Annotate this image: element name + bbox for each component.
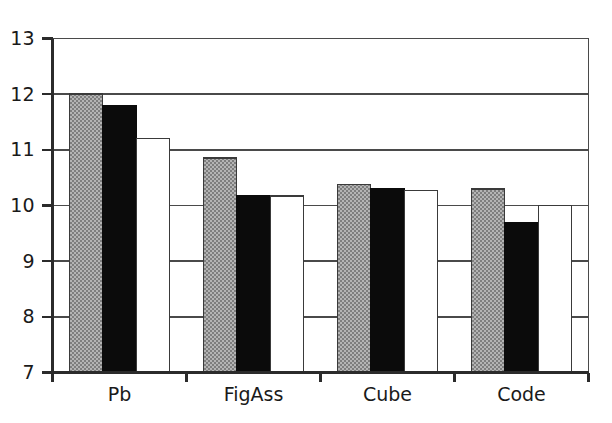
y-tick-label-9: 9 bbox=[22, 250, 34, 272]
bar-code-white bbox=[538, 206, 572, 373]
bar-code-gray bbox=[471, 189, 505, 373]
bar-chart-figure: 78910111213 PbFigAssCubeCode bbox=[0, 0, 612, 423]
y-tick-label-13: 13 bbox=[10, 27, 34, 49]
x-tick-label-cube: Cube bbox=[363, 383, 412, 405]
bar-cube-gray bbox=[337, 184, 371, 372]
bar-cube-black bbox=[371, 189, 405, 373]
x-tick-label-pb: Pb bbox=[108, 383, 132, 405]
x-tick-label-figass: FigAss bbox=[224, 383, 284, 405]
bar-pb-white bbox=[136, 139, 170, 373]
y-tick-label-7: 7 bbox=[22, 361, 34, 383]
y-tick-label-11: 11 bbox=[10, 138, 34, 160]
x-axis: PbFigAssCubeCode bbox=[53, 373, 589, 405]
bar-group-code bbox=[471, 189, 572, 373]
x-tick-label-code: Code bbox=[497, 383, 546, 405]
y-tick-label-12: 12 bbox=[10, 83, 34, 105]
bar-code-black bbox=[505, 222, 539, 372]
bar-pb-black bbox=[103, 105, 137, 372]
bar-pb-gray bbox=[69, 94, 103, 372]
bar-figass-black bbox=[237, 196, 271, 372]
bar-group-pb bbox=[69, 94, 170, 372]
bar-figass-gray bbox=[203, 158, 237, 372]
bar-group-cube bbox=[337, 184, 438, 372]
bar-figass-white bbox=[270, 196, 304, 372]
y-tick-label-10: 10 bbox=[10, 194, 34, 216]
chart-canvas: 78910111213 PbFigAssCubeCode bbox=[0, 0, 612, 423]
bar-cube-white bbox=[404, 190, 438, 372]
bar-group-figass bbox=[203, 158, 304, 372]
bars-layer bbox=[69, 94, 572, 372]
y-tick-label-8: 8 bbox=[22, 305, 34, 327]
